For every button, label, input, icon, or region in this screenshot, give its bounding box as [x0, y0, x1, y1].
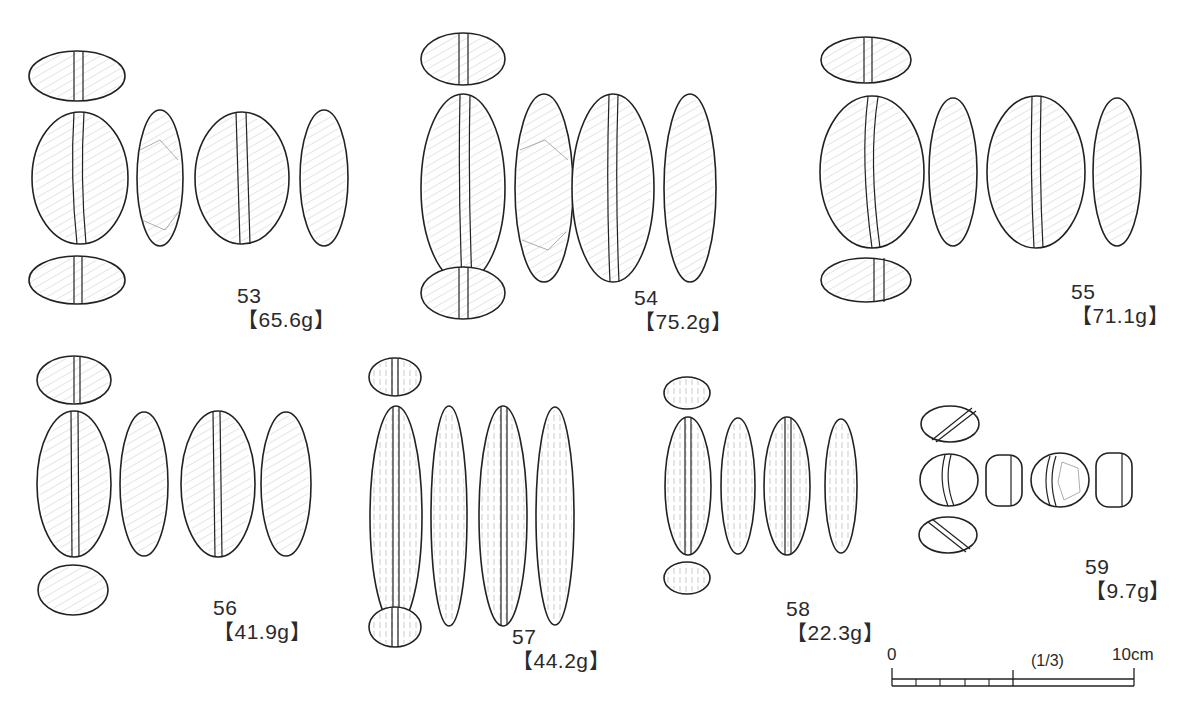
- artifact-label-56: 56 【41.9g】: [213, 596, 311, 644]
- stone-55-drawing: [820, 37, 1141, 302]
- artifact-number: 54: [634, 286, 732, 310]
- artifact-plate: 53 【65.6g】 54 【75.2g】 55 【71.1g】 56 【41.…: [0, 0, 1177, 713]
- artifact-weight: 【44.2g】: [512, 649, 610, 673]
- stone-53-drawing: [29, 51, 348, 304]
- artifact-number: 53: [237, 284, 335, 308]
- artifact-number: 58: [786, 597, 884, 621]
- scale-ratio-label: (1/3): [1031, 652, 1064, 670]
- artifact-label-55: 55 【71.1g】: [1071, 280, 1169, 328]
- artifact-label-54: 54 【75.2g】: [634, 286, 732, 334]
- artifact-number: 59: [1085, 555, 1171, 579]
- artifact-weight: 【75.2g】: [634, 310, 732, 334]
- artifact-weight: 【65.6g】: [237, 308, 335, 332]
- stone-58-drawing: [664, 377, 857, 594]
- artifact-number: 55: [1071, 280, 1169, 304]
- stone-56-drawing: [37, 356, 311, 615]
- artifact-number: 56: [213, 596, 311, 620]
- artifact-weight: 【71.1g】: [1071, 304, 1169, 328]
- artifact-label-53: 53 【65.6g】: [237, 284, 335, 332]
- artifact-label-58: 58 【22.3g】: [786, 597, 884, 645]
- artifact-number: 57: [512, 625, 610, 649]
- artifact-label-59: 59 【9.7g】: [1085, 555, 1171, 603]
- artifact-weight: 【41.9g】: [213, 620, 311, 644]
- scale-start-label: 0: [887, 645, 896, 665]
- stone-59-drawing: [919, 406, 1132, 553]
- artifact-weight: 【9.7g】: [1085, 579, 1171, 603]
- stone-57-drawing: [369, 358, 574, 647]
- artifact-label-57: 57 【44.2g】: [512, 625, 610, 673]
- stone-drawings: [0, 0, 1177, 713]
- stone-54-drawing: [421, 33, 716, 319]
- scale-end-label: 10cm: [1112, 645, 1154, 665]
- scale-bar: [892, 668, 1134, 686]
- artifact-weight: 【22.3g】: [786, 621, 884, 645]
